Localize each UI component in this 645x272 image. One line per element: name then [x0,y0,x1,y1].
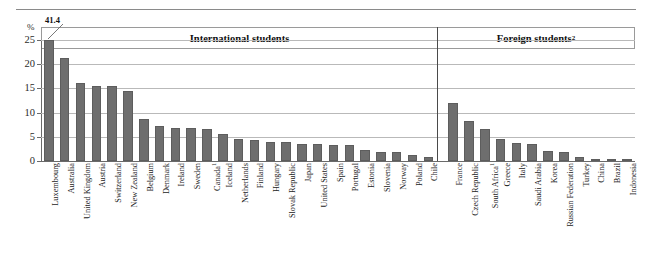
category-label: Greece [504,163,512,187]
bar-column [445,40,461,161]
bar-column [215,40,231,161]
y-axis-tick-label-10: 10 [0,108,35,118]
category-label: South Africa1 [488,163,500,208]
category-label: Italy [519,163,527,178]
category-label: Saudi Arabia [535,163,543,206]
category-label: New Zealand [131,163,139,207]
bar-column [104,40,120,161]
y-axis-tickmark-25 [37,40,41,41]
bars-layer [41,40,635,161]
category-label: Korea [551,163,559,183]
bar [512,143,521,161]
y-axis-tick-label-20: 20 [0,59,35,69]
bar [591,159,600,161]
bar [155,126,164,161]
group-divider-line [437,27,438,161]
bar [543,151,552,161]
bar-column [572,40,588,161]
bar [527,144,536,161]
bar-column [556,40,572,161]
y-axis-tick-label-5: 5 [0,132,35,142]
bar-column [461,40,477,161]
category-label: Estonia [368,163,376,188]
bar-column [247,40,263,161]
category-label: Spain [337,163,345,182]
plot-area [41,40,635,161]
bar [313,144,322,161]
category-label: Netherlands [242,163,250,203]
bar [607,159,616,161]
category-label: Slovak Republic [289,163,297,218]
category-label: United States [321,163,329,207]
bar [202,129,211,161]
category-label: Australia [68,163,76,193]
category-label: Czech Republic [472,163,480,216]
bar [186,128,195,161]
bar-column [509,40,525,161]
bar [281,142,290,161]
bar [250,140,259,161]
bar-column [136,40,152,161]
category-label: China [598,163,606,183]
bar-column [493,40,509,161]
bar [360,150,369,161]
bar-column [183,40,199,161]
bar-column [73,40,89,161]
y-axis-tickmark-20 [37,64,41,65]
category-label: Canada1 [210,163,222,191]
category-label: Chile [431,163,439,181]
category-label: Japan [305,163,313,182]
bar [496,139,505,161]
category-label: Sweden [194,163,202,189]
bar-column [310,40,326,161]
category-labels: LuxembourgAustraliaUnited KingdomAustria… [41,163,635,268]
category-label: Norway [400,163,408,190]
category-label: Portugal [352,163,360,191]
bar [329,145,338,161]
category-label: Ireland [178,163,186,187]
bar-column [88,40,104,161]
bar-column [420,40,436,161]
callout-leader-line [47,24,64,40]
category-label: Iceland [226,163,234,187]
category-label: United Kingdom [84,163,92,219]
category-label: Denmark [163,163,171,194]
bar [376,152,385,161]
y-axis-tickmark-5 [37,137,41,138]
bar-column [57,40,73,161]
category-label: Austria [99,163,107,187]
bar-column [167,40,183,161]
bar-column [341,40,357,161]
category-label: Poland [416,163,424,186]
category-label: Finland [257,163,265,188]
bar [464,121,473,161]
category-label: France [456,163,464,186]
bar-column [603,40,619,161]
top-divider-rule [16,9,636,10]
bar-column [588,40,604,161]
y-axis-tickmark-0 [37,161,41,162]
bar-column [294,40,310,161]
y-axis-tick-label-15: 15 [0,83,35,93]
category-label: Slovenia [384,163,392,192]
y-axis-tick-label-25: 25 [0,35,35,45]
bar-column [278,40,294,161]
bar-column [199,40,215,161]
bar-column [524,40,540,161]
category-label: Turkey [583,163,591,187]
bar-column [326,40,342,161]
bar [44,40,53,161]
bar [408,155,417,161]
bar-column [357,40,373,161]
bar [107,86,116,161]
chart-container: International students Foreign students2… [0,0,645,272]
bar [60,58,69,161]
bar-column [477,40,493,161]
bar [123,91,132,161]
bar [424,157,433,161]
category-label: Russian Federation [567,163,575,227]
category-label: Luxembourg [52,163,60,206]
y-axis-tickmark-15 [37,88,41,89]
bar [92,86,101,161]
bar-column [120,40,136,161]
